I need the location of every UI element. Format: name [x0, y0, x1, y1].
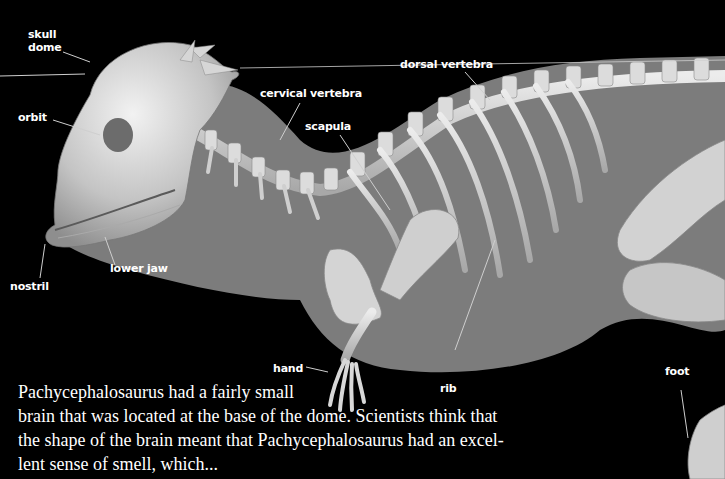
- label-cervical-vertebra: cervical vertebra: [260, 87, 362, 100]
- caption-text: Pachycephalosaurus had a fairly small br…: [18, 380, 498, 476]
- label-lower-jaw: lower jaw: [110, 262, 168, 275]
- label-nostril: nostril: [10, 280, 49, 293]
- label-dome-line2: dome: [28, 41, 62, 54]
- label-foot: foot: [665, 365, 689, 378]
- caption-line: the shape of the brain meant that Pachyc…: [18, 428, 498, 452]
- caption-line: brain that was located at the base of th…: [18, 404, 498, 428]
- label-orbit: orbit: [18, 111, 47, 124]
- caption-line: Pachycephalosaurus had a fairly small: [18, 380, 498, 404]
- label-dorsal-vertebra: dorsal vertebra: [400, 58, 493, 71]
- skeleton-diagram: skull dome orbit nostril lower jaw cervi…: [0, 0, 725, 479]
- label-scapula: scapula: [305, 120, 351, 133]
- orbit-socket: [103, 118, 133, 152]
- label-hand: hand: [273, 362, 303, 375]
- label-skull-line1: skull: [28, 28, 62, 41]
- caption-line: lent sense of smell, which...: [18, 452, 498, 476]
- label-skull-dome: skull dome: [28, 28, 62, 54]
